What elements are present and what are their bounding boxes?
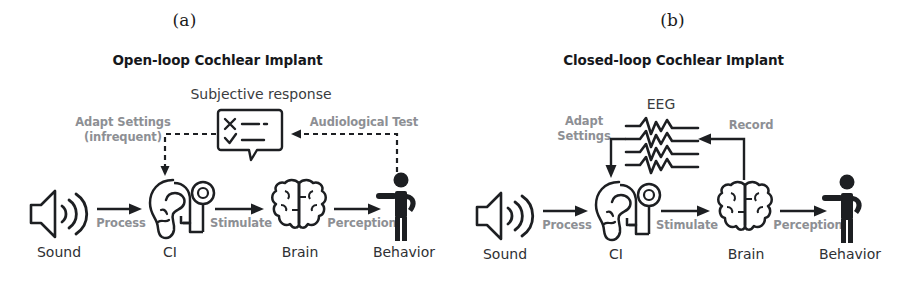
node-label-ci-a: CI [140,244,200,260]
speaker-icon [474,190,536,242]
arrow-process-b [543,204,589,218]
brain-icon [714,179,776,237]
edge-label-stimulate-b: Stimulate [651,218,723,232]
node-label-ci-b: CI [586,246,646,262]
ear-implant-icon [589,178,661,246]
brain-icon [268,177,330,235]
person-icon [374,172,422,242]
node-label-behavior-b: Behavior [808,246,892,262]
node-label-brain-b: Brain [715,246,777,262]
arrow-stimulate-a [215,202,265,216]
edge-label-stimulate-a: Stimulate [205,216,277,230]
panel-open-loop: (a) Open-loop Cochlear Implant Subjectiv… [0,0,449,286]
ear-implant-icon [143,176,215,244]
speaker-icon [28,188,90,240]
person-icon [820,174,868,244]
arrow-process-a [97,202,143,216]
panel-closed-loop: (b) Closed-loop Cochlear Implant EEG Ada… [448,0,897,286]
node-label-sound-a: Sound [19,244,99,260]
node-label-brain-a: Brain [269,244,331,260]
arrow-stimulate-b [661,204,711,218]
figure-cochlear-implant-loops: (a) Open-loop Cochlear Implant Subjectiv… [0,0,897,286]
node-label-behavior-a: Behavior [362,244,446,260]
node-label-sound-b: Sound [465,246,545,262]
